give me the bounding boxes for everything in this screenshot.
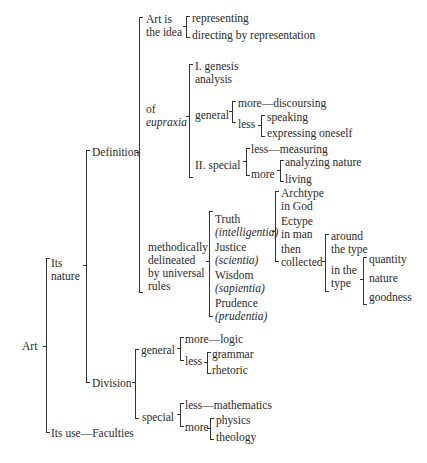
quantity: quantity bbox=[369, 253, 407, 266]
more-discoursing: more—discoursing bbox=[238, 97, 326, 110]
then: then bbox=[281, 243, 301, 256]
its-nature-2: nature bbox=[51, 270, 80, 283]
type: type bbox=[331, 277, 351, 290]
brace-special-div bbox=[180, 403, 181, 427]
definition: Definition bbox=[92, 146, 139, 159]
brace-idea bbox=[186, 16, 187, 38]
less-div: less bbox=[185, 355, 202, 368]
special-div: special bbox=[142, 411, 174, 424]
directing: directing by representation bbox=[192, 29, 315, 42]
brace-eupraxia bbox=[189, 64, 190, 178]
brace-collected bbox=[325, 234, 326, 292]
brace-more-div bbox=[210, 418, 211, 440]
more-div: more bbox=[185, 421, 209, 434]
justice: Justice bbox=[215, 241, 246, 254]
its-use: Its use—Faculties bbox=[51, 427, 134, 440]
truth-latin: (intelligentia) bbox=[215, 226, 278, 239]
method-2: delineated bbox=[148, 254, 195, 267]
method-3: by universal bbox=[148, 267, 205, 280]
brace-less-eup bbox=[261, 115, 262, 137]
special-eup: II. special bbox=[195, 159, 240, 172]
more-logic: more—logic bbox=[185, 333, 243, 346]
brace-division bbox=[135, 349, 136, 419]
genesis: I. genesis bbox=[195, 60, 238, 73]
grammar: grammar bbox=[212, 348, 254, 361]
general-div: general bbox=[141, 344, 175, 357]
brace-definition bbox=[139, 17, 140, 293]
less-mathematics: less—mathematics bbox=[185, 399, 272, 412]
collected: collected bbox=[281, 256, 323, 269]
idea-1: Art is bbox=[146, 13, 172, 26]
division: Division bbox=[92, 377, 132, 390]
rhetoric: rhetoric bbox=[212, 364, 248, 377]
less-eup: less bbox=[238, 118, 255, 131]
brace-general-eup bbox=[232, 101, 233, 123]
more-special: more bbox=[251, 168, 275, 181]
brace-less-div bbox=[207, 352, 208, 374]
wisdom: Wisdom bbox=[215, 269, 254, 282]
general-eup: general bbox=[195, 109, 229, 122]
its-nature-1: Its bbox=[51, 257, 63, 270]
root-art: Art bbox=[22, 340, 37, 353]
theology: theology bbox=[216, 431, 256, 444]
wisdom-latin: (sapientia) bbox=[215, 282, 265, 295]
prudence: Prudence bbox=[215, 297, 258, 310]
brace-nature bbox=[86, 150, 87, 383]
prudence-latin: (prudentia) bbox=[215, 310, 267, 323]
brace-method bbox=[209, 211, 210, 317]
brace-truth bbox=[275, 191, 276, 262]
analyzing-nature: analyzing nature bbox=[285, 156, 361, 169]
eupraxia-2: eupraxia bbox=[146, 116, 187, 129]
in-god: in God bbox=[281, 200, 313, 213]
less-measuring: less—measuring bbox=[251, 143, 328, 156]
speaking: speaking bbox=[267, 111, 308, 124]
brace-special-eup bbox=[246, 148, 247, 176]
eupraxia-1: of bbox=[146, 103, 156, 116]
truth: Truth bbox=[215, 213, 240, 226]
idea-2: the idea bbox=[146, 26, 182, 39]
physics: physics bbox=[216, 414, 251, 427]
analysis: analysis bbox=[195, 73, 232, 86]
brace-in-type bbox=[363, 257, 364, 305]
expressing: expressing oneself bbox=[267, 127, 352, 140]
around: around bbox=[331, 230, 363, 243]
living: living bbox=[285, 173, 312, 186]
goodness: goodness bbox=[369, 291, 412, 304]
the-type: the type bbox=[331, 243, 368, 256]
method-4: rules bbox=[148, 280, 170, 293]
nature: nature bbox=[369, 272, 398, 285]
archtype: Archtype bbox=[281, 187, 324, 200]
brace-art bbox=[46, 258, 47, 433]
brace-more-special bbox=[280, 160, 281, 182]
in-man: in man bbox=[281, 228, 313, 241]
ectype: Ectype bbox=[281, 215, 313, 228]
in-the: in the bbox=[331, 264, 357, 277]
brace-general-div bbox=[180, 337, 181, 361]
method-1: methodically bbox=[148, 241, 208, 254]
representing: representing bbox=[192, 12, 249, 25]
justice-latin: (scientia) bbox=[215, 254, 258, 267]
